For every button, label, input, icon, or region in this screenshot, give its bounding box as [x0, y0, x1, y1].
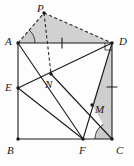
segment-E-F	[18, 88, 83, 139]
vertex-dot-c	[110, 137, 113, 140]
point-label-p: P	[37, 3, 44, 14]
vertex-dot-b	[16, 137, 19, 140]
vertex-dot-e	[16, 86, 19, 89]
vertex-dot-n	[49, 72, 52, 75]
point-label-d: D	[119, 36, 127, 47]
point-label-c: C	[116, 145, 123, 156]
point-label-m: M	[95, 104, 104, 115]
geometry-canvas	[0, 0, 134, 166]
point-label-f: F	[79, 145, 86, 156]
vertex-dot-d	[110, 41, 113, 44]
segment-D-E	[18, 43, 112, 88]
geometry-figure: ABCDEFMNP	[0, 0, 134, 166]
vertex-dot-m	[90, 103, 93, 106]
segment-A-F	[18, 43, 83, 139]
vertex-dot-f	[81, 137, 84, 140]
point-label-a: A	[5, 36, 12, 47]
point-label-e: E	[5, 82, 12, 93]
region-triangle-DMC	[92, 43, 112, 139]
point-label-b: B	[7, 145, 14, 156]
shaded-regions-layer	[18, 13, 112, 139]
point-label-n: N	[45, 79, 52, 90]
vertex-dot-a	[16, 41, 19, 44]
